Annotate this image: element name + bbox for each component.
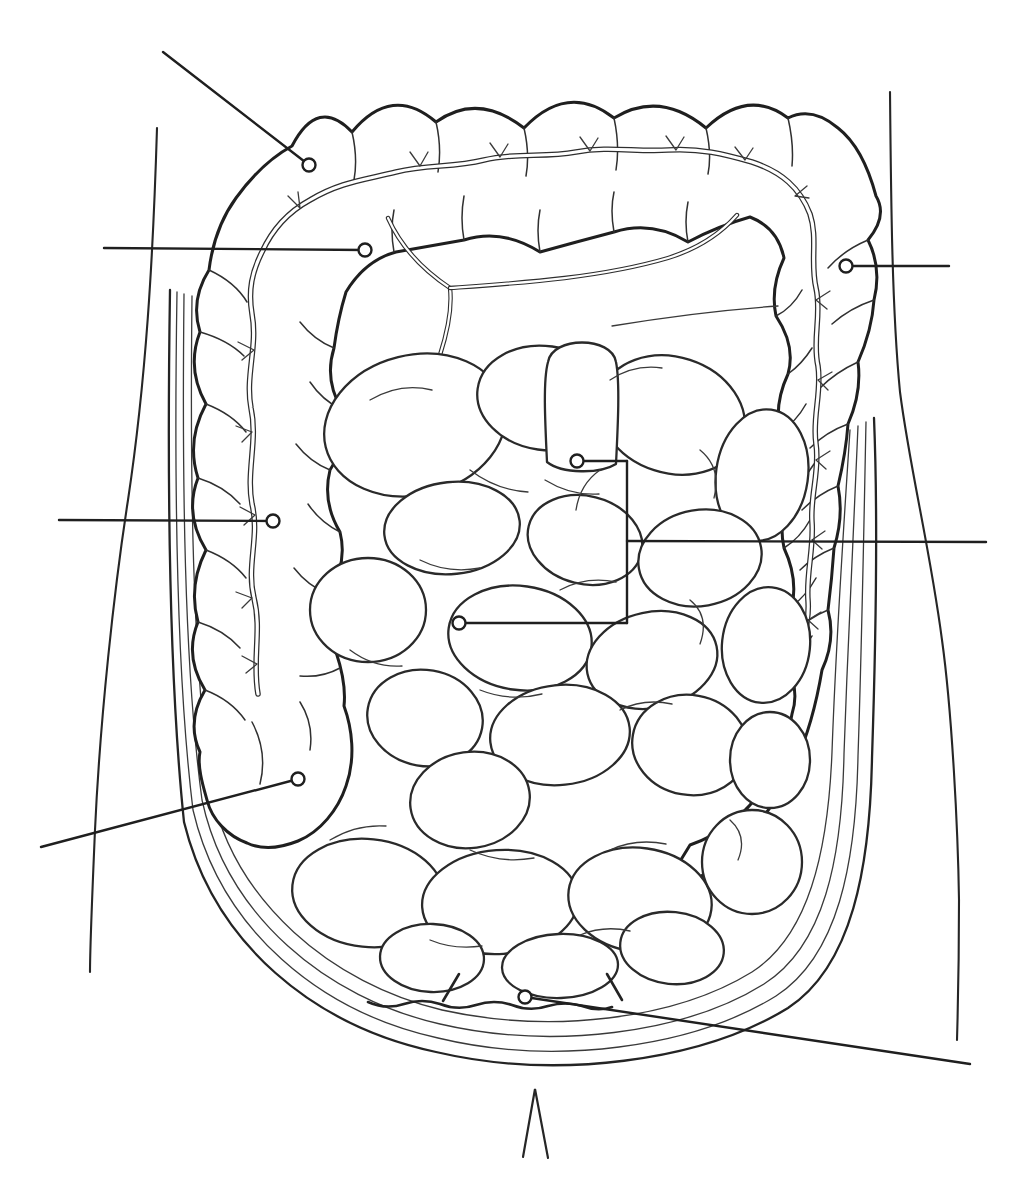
transverse-colon-marker	[163, 52, 316, 172]
bowel-loop	[441, 576, 598, 699]
body-outline-right	[890, 92, 959, 1040]
bowel-loop	[310, 558, 426, 662]
leader-endpoint-circle	[359, 244, 372, 257]
omentum-fold-line	[612, 306, 778, 326]
leader-endpoint-circle	[267, 515, 280, 528]
leader-line	[627, 541, 986, 542]
sigmoid-colon-marker	[519, 991, 971, 1065]
leader-line	[525, 997, 970, 1064]
leader-line	[59, 520, 273, 521]
leader-endpoint-circle	[292, 773, 305, 786]
leader-endpoint-circle	[571, 455, 584, 468]
leader-endpoint-circle	[519, 991, 532, 1004]
midline-notch	[523, 1089, 548, 1158]
small-intestine	[287, 335, 817, 1000]
body-outline-left	[90, 128, 157, 972]
leader-endpoint-circle	[453, 617, 466, 630]
intestines-figure	[0, 0, 1029, 1200]
leader-endpoint-circle	[840, 260, 853, 273]
figure-canvas	[0, 0, 1029, 1200]
leader-endpoint-circle	[303, 159, 316, 172]
bowel-loop	[730, 712, 810, 808]
pelvic-side-fold-right	[607, 974, 622, 1000]
bowel-loop-finger	[545, 343, 618, 472]
bowel-loop	[702, 810, 802, 914]
leader-line	[163, 52, 309, 165]
